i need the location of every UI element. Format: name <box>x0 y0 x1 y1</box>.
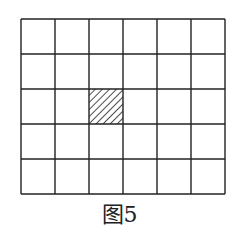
figure-caption: 图5 <box>0 201 239 229</box>
grid-lines <box>21 19 225 194</box>
shaded-cells <box>89 89 123 124</box>
shaded-cell <box>89 89 123 124</box>
